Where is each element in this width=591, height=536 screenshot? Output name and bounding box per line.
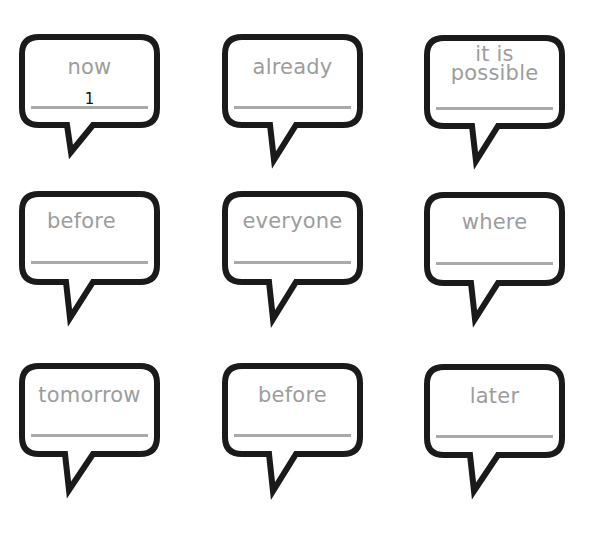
word-label: before: [27, 211, 152, 232]
answer-line[interactable]: [31, 261, 148, 264]
speech-bubble-9: later: [424, 364, 565, 496]
speech-bubble-icon: [222, 34, 363, 166]
answer-text[interactable]: 1: [31, 92, 148, 107]
answer-line[interactable]: [31, 434, 148, 437]
answer-line[interactable]: [31, 106, 148, 109]
word-label: tomorrow: [27, 385, 152, 406]
word-label: where: [432, 212, 557, 233]
speech-bubble-5: everyone: [222, 191, 363, 323]
word-label: it is possible: [432, 45, 557, 83]
word-label: everyone: [230, 211, 355, 232]
speech-bubble-7: tomorrow: [19, 363, 160, 495]
speech-bubble-6: where: [424, 192, 565, 324]
answer-line[interactable]: [436, 107, 553, 110]
word-label: now: [27, 57, 152, 78]
word-label: later: [432, 386, 557, 407]
answer-line[interactable]: [234, 261, 351, 264]
speech-bubble-1: now 1: [19, 34, 160, 166]
answer-line[interactable]: [234, 434, 351, 437]
answer-line[interactable]: [436, 435, 553, 438]
answer-line[interactable]: [436, 262, 553, 265]
speech-bubble-2: already: [222, 34, 363, 166]
word-label: before: [230, 385, 355, 406]
word-label-line-2: possible: [432, 64, 557, 83]
speech-bubble-4: before: [19, 191, 160, 323]
speech-bubble-8: before: [222, 363, 363, 495]
word-label: already: [230, 57, 355, 78]
answer-line[interactable]: [234, 106, 351, 109]
speech-bubble-3: it is possible: [424, 35, 565, 167]
